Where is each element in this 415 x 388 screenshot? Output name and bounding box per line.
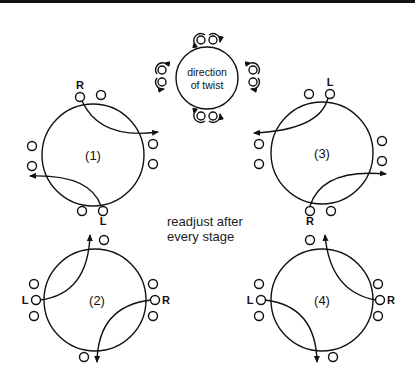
note-line-1: readjust after (167, 214, 243, 229)
center-label-line2: of twist (191, 79, 224, 91)
stage-3-top-label: L (327, 76, 334, 88)
stage-2-right-label: R (162, 294, 170, 306)
stage-1-top-label: R (76, 79, 84, 91)
readjust-note: readjust after every stage (167, 214, 243, 244)
stage-2-left-label: L (22, 294, 29, 306)
stage-4-label: (4) (314, 293, 330, 308)
stage-3-bottom-label: R (306, 215, 314, 227)
direction-of-twist-diagram (156, 34, 260, 123)
stage-3-label: (3) (314, 146, 330, 161)
stage-4-left-label: L (247, 294, 254, 306)
stage-2-label: (2) (89, 293, 105, 308)
stage-4-right-label: R (387, 294, 395, 306)
center-circle (176, 47, 238, 109)
stage-1-bottom-label: L (100, 215, 107, 227)
note-line-2: every stage (167, 229, 243, 244)
diagram-canvas: direction of twist (1) R L (3) L R (2) L… (0, 0, 415, 388)
center-label-line1: direction (187, 66, 227, 78)
stage-1-label: (1) (85, 148, 101, 163)
